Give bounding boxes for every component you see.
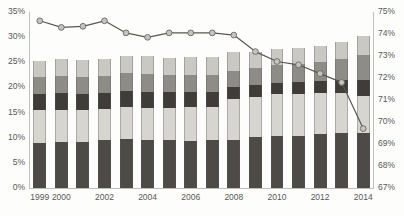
line-marker-2005 [166,30,172,36]
bar-segment-segment-5 [357,36,370,56]
bar-segment-segment-3 [33,94,46,110]
bar-segment-segment-1 [141,140,154,188]
right-axis-tick-label: 68% [378,161,404,170]
bar-segment-segment-3 [76,94,89,110]
bar-segment-segment-3 [184,92,197,107]
bar-segment-segment-3 [335,80,348,94]
plot-right-border [373,12,374,189]
bar-segment-segment-2 [357,96,370,133]
bar-segment-segment-1 [271,136,284,188]
line-marker-2001 [80,23,86,29]
bar-2003 [120,56,133,188]
x-axis-tick-label-2002: 2002 [84,192,124,202]
bar-segment-segment-1 [249,137,262,188]
line-marker-1999 [37,18,43,24]
x-axis-tick-label-2012: 2012 [300,192,340,202]
bar-segment-segment-2 [271,94,284,136]
bar-2008 [227,52,240,188]
right-axis-tick-label: 72% [378,73,404,82]
right-axis-tick-label: 67% [378,183,404,192]
cropped-legend-strip [10,208,340,216]
right-axis-tick-label: 69% [378,139,404,148]
bar-segment-segment-5 [249,52,262,68]
line-marker-2003 [123,30,129,36]
bar-segment-segment-1 [357,133,370,188]
bar-segment-segment-3 [227,87,240,98]
bar-segment-segment-4 [76,77,89,94]
bar-segment-segment-5 [314,46,327,63]
bar-segment-segment-1 [227,140,240,188]
x-axis-tick-label-2008: 2008 [214,192,254,202]
x-axis-tick-label-2000: 2000 [41,192,81,202]
bar-2004 [141,56,154,188]
bar-2012 [314,46,327,188]
bar-segment-segment-1 [120,139,133,188]
bar-segment-segment-4 [55,76,68,94]
bar-segment-segment-3 [98,93,111,109]
bar-segment-segment-1 [292,136,305,188]
left-axis-tick-label: 5% [0,158,25,167]
bar-segment-segment-3 [314,81,327,94]
bar-segment-segment-4 [141,74,154,92]
bar-2011 [292,48,305,188]
bar-segment-segment-5 [206,57,219,75]
bar-segment-segment-2 [163,108,176,140]
line-marker-2008 [231,32,237,38]
line-marker-2002 [102,18,108,24]
bar-segment-segment-4 [98,76,111,93]
bar-2002 [98,59,111,188]
line-marker-2004 [145,34,151,40]
bar-segment-segment-3 [249,85,262,97]
bar-segment-segment-4 [314,62,327,81]
bar-segment-segment-2 [76,110,89,142]
bar-segment-segment-1 [55,142,68,188]
bar-segment-segment-4 [120,73,133,91]
bar-segment-segment-3 [55,93,68,110]
bar-segment-segment-2 [120,107,133,139]
bar-segment-segment-5 [55,59,68,76]
bar-segment-segment-2 [98,109,111,141]
line-marker-2000 [58,25,64,31]
right-axis-tick-label: 70% [378,117,404,126]
right-axis-tick-label: 73% [378,51,404,60]
bar-2007 [206,57,219,188]
right-axis-tick-label: 75% [378,7,404,16]
bar-segment-segment-2 [314,93,327,134]
bar-2013 [335,42,348,188]
bar-segment-segment-2 [335,93,348,133]
bar-segment-segment-2 [184,107,197,141]
bar-segment-segment-2 [249,97,262,138]
left-axis-tick-label: 20% [0,82,25,91]
bar-segment-segment-2 [141,108,154,140]
left-axis-tick-label: 0% [0,183,25,192]
bar-2006 [184,57,197,188]
bar-segment-segment-3 [206,92,219,107]
bar-segment-segment-5 [120,56,133,73]
bar-2010 [271,49,284,188]
left-axis-tick-label: 15% [0,108,25,117]
bar-segment-segment-5 [33,61,46,77]
bar-segment-segment-2 [55,110,68,142]
bar-segment-segment-3 [357,80,370,96]
bar-segment-segment-5 [163,58,176,76]
bar-segment-segment-5 [271,49,284,65]
x-axis-tick-label-2006: 2006 [171,192,211,202]
bar-segment-segment-3 [292,82,305,94]
right-axis-tick-label: 71% [378,95,404,104]
plot-area [29,12,374,189]
bar-segment-segment-3 [163,92,176,108]
bar-segment-segment-4 [206,75,219,92]
bar-segment-segment-4 [335,59,348,80]
x-axis-tick-label-2004: 2004 [128,192,168,202]
bar-1999 [33,61,46,188]
left-axis-tick-label: 10% [0,133,25,142]
x-axis-tick-label-2010: 2010 [257,192,297,202]
chart-container: 0%5%10%15%20%25%30%35% 67%68%69%70%71%72… [0,0,404,216]
bar-segment-segment-1 [163,140,176,188]
bar-segment-segment-5 [292,48,305,65]
bar-segment-segment-1 [206,140,219,188]
bar-2005 [163,58,176,188]
bar-segment-segment-4 [271,65,284,83]
bar-2001 [76,60,89,188]
left-axis-tick-label: 35% [0,7,25,16]
